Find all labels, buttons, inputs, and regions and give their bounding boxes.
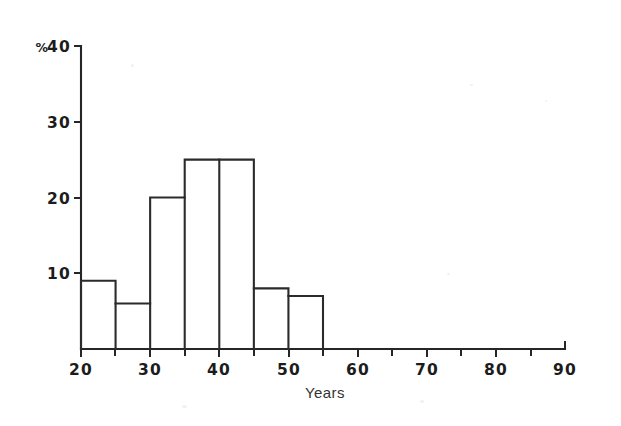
x-tick-label-20: 20: [69, 361, 93, 379]
histogram-bar-25-30[interactable]: [116, 304, 151, 349]
x-tick-label-30: 30: [138, 361, 162, 379]
y-axis-tick-labels: % 40 30 20 10: [35, 38, 71, 283]
x-tick-label-70: 70: [415, 361, 439, 379]
histogram-figure: % 40 30 20 10: [0, 0, 621, 426]
y-tick-label-10: 10: [47, 265, 71, 283]
x-tick-label-90: 90: [553, 361, 577, 379]
x-tick-label-40: 40: [207, 361, 231, 379]
histogram-bar-20-25[interactable]: [81, 281, 116, 349]
y-tick-label-20: 20: [47, 190, 71, 208]
histogram-bar-45-50[interactable]: [254, 288, 289, 349]
histogram-plot: % 40 30 20 10: [0, 0, 621, 426]
histogram-bar-35-40[interactable]: [185, 160, 220, 349]
y-tick-label-40: 40: [47, 38, 71, 56]
x-axis-title: Years: [305, 384, 345, 401]
x-tick-label-80: 80: [484, 361, 508, 379]
x-axis-tick-labels: 20 30 40 50 60 70 80 90: [69, 361, 577, 379]
histogram-bars: [81, 160, 323, 349]
histogram-bar-40-45[interactable]: [219, 160, 254, 349]
x-tick-label-50: 50: [277, 361, 301, 379]
y-tick-label-30: 30: [47, 114, 71, 132]
x-tick-label-60: 60: [346, 361, 370, 379]
histogram-bar-30-35[interactable]: [150, 198, 185, 350]
histogram-bar-50-55[interactable]: [288, 296, 323, 349]
